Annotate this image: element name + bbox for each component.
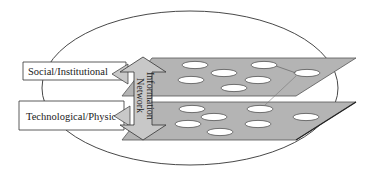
social-label-text: Social/Institutional (28, 66, 108, 77)
network-node (207, 128, 233, 135)
network-node (294, 69, 320, 76)
network-node (201, 113, 227, 120)
information-network-arrow: Information Network (120, 57, 166, 140)
social-institutional-label: Social/Institutional (23, 62, 126, 80)
technological-physic-label: Technological/Physic (19, 101, 124, 130)
layered-network-diagram: Social/Institutional Technological/Physi… (0, 0, 375, 172)
arrow-label-line2: Network (135, 78, 146, 113)
network-node (293, 113, 319, 120)
technological-layer-plane (122, 102, 356, 140)
network-node (211, 69, 237, 76)
network-node (175, 120, 201, 127)
network-node (251, 61, 277, 68)
technological-label-text: Technological/Physic (26, 111, 117, 122)
network-node (179, 105, 205, 112)
network-node (178, 76, 204, 83)
social-layer-plane (122, 58, 356, 96)
network-node (182, 61, 208, 68)
network-node (221, 84, 247, 91)
network-node (245, 120, 271, 127)
network-node (245, 76, 271, 83)
network-node (247, 105, 273, 112)
